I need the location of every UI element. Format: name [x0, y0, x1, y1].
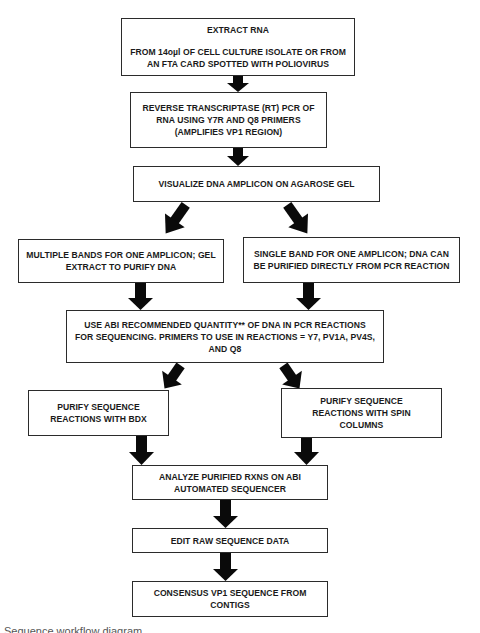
step-text-line: PURIFY SEQUENCE — [57, 401, 140, 413]
step-text-line: AUTOMATED SEQUENCER — [174, 483, 286, 495]
step-sequencing-pcr: USE ABI RECOMMENDED QUANTITY** OF DNA IN… — [66, 310, 384, 363]
step-multiple-bands: MULTIPLE BANDS FOR ONE AMPLICON; GEL EXT… — [18, 239, 224, 283]
step-text-line: (AMPLIFIES VP1 REGION) — [175, 126, 283, 138]
arrow-visualize-to-multiple — [156, 198, 196, 240]
step-text-line: REACTIONS WITH SPIN — [312, 407, 410, 419]
step-single-band: SINGLE BAND FOR ONE AMPLICON; DNA CAN BE… — [243, 237, 460, 283]
step-edit: EDIT RAW SEQUENCE DATA — [132, 528, 328, 553]
step-text-line: PURIFY SEQUENCE — [320, 395, 403, 407]
step-text-line: CONTIGS — [210, 599, 250, 611]
step-text-line: USE ABI RECOMMENDED QUANTITY** OF DNA IN… — [84, 319, 365, 331]
arrow-edit-to-consensus — [213, 553, 238, 581]
step-text-line: MULTIPLE BANDS FOR ONE AMPLICON; GEL — [26, 249, 215, 261]
step-text-line: SINGLE BAND FOR ONE AMPLICON; DNA CAN — [254, 248, 449, 260]
step-visualize: VISUALIZE DNA AMPLICON ON AGAROSE GEL — [133, 166, 380, 202]
arrow-bdx-to-analyze — [129, 436, 154, 465]
arrow-multiple-to-sequencing — [128, 283, 153, 310]
step-text-line: AN FTA CARD SPOTTED WITH POLIOVIRUS — [147, 58, 329, 70]
step-purify-bdx: PURIFY SEQUENCE REACTIONS WITH BDX — [28, 390, 169, 436]
step-text-line: REACTIONS WITH BDX — [50, 413, 146, 425]
step-text-line: AND Q8 — [209, 343, 242, 355]
arrow-spin-to-analyze — [294, 438, 319, 465]
step-analyze: ANALYZE PURIFIED RXNS ON ABI AUTOMATED S… — [132, 465, 328, 500]
step-text-line: VISUALIZE DNA AMPLICON ON AGAROSE GEL — [158, 178, 354, 190]
step-rt-pcr: REVERSE TRANSCRIPTASE (RT) PCR OF RNA US… — [130, 92, 327, 148]
arrow-visualize-to-single — [277, 198, 317, 240]
arrow-analyze-to-edit — [213, 500, 238, 528]
step-text-line: COLUMNS — [340, 419, 384, 431]
step-consensus: CONSENSUS VP1 SEQUENCE FROM CONTIGS — [132, 581, 328, 617]
step-purify-spin: PURIFY SEQUENCE REACTIONS WITH SPIN COLU… — [281, 388, 442, 438]
step-text-line: FOR SEQUENCING. PRIMERS TO USE IN REACTI… — [75, 331, 375, 343]
figure-caption: Sequence workflow diagram — [4, 626, 142, 633]
step-text-line: EDIT RAW SEQUENCE DATA — [171, 535, 290, 547]
step-text-line: EXTRACT TO PURIFY DNA — [66, 261, 177, 273]
step-extract-rna: EXTRACT RNA FROM 14oµl OF CELL CULTURE I… — [121, 18, 355, 76]
step-heading: EXTRACT RNA — [207, 24, 269, 36]
arrow-single-to-sequencing — [296, 283, 321, 310]
step-text-line: CONSENSUS VP1 SEQUENCE FROM — [154, 587, 307, 599]
step-text-line: BE PURIFIED DIRECTLY FROM PCR REACTION — [253, 260, 449, 272]
step-text-line: FROM 14oµl OF CELL CULTURE ISOLATE OR FR… — [130, 46, 346, 58]
step-text-line: RNA USING Y7R AND Q8 PRIMERS — [156, 114, 300, 126]
flowchart-canvas: EXTRACT RNA FROM 14oµl OF CELL CULTURE I… — [0, 0, 480, 633]
step-text-line: ANALYZE PURIFIED RXNS ON ABI — [159, 471, 301, 483]
arrow-rtpcr-to-visualize — [227, 148, 249, 166]
step-text-line: REVERSE TRANSCRIPTASE (RT) PCR OF — [143, 102, 315, 114]
arrow-extract-to-rtpcr — [227, 76, 249, 92]
